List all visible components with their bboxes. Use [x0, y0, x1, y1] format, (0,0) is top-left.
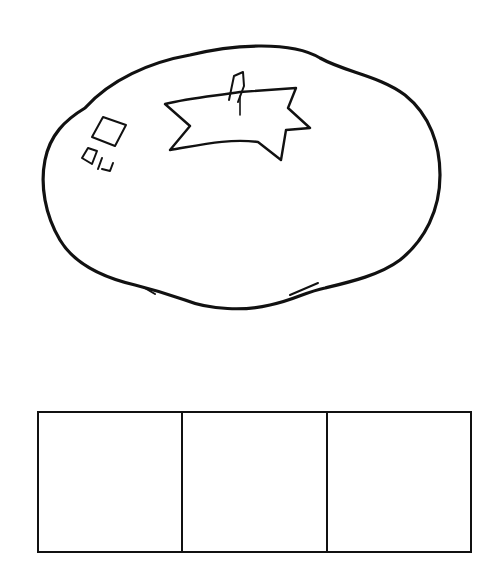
highlight-marks — [82, 117, 126, 171]
stem — [229, 72, 244, 102]
sound-box-2[interactable] — [183, 413, 327, 551]
sound-box-3[interactable] — [328, 413, 470, 551]
tomato-illustration — [0, 0, 500, 340]
tomato-outline — [43, 46, 440, 309]
sound-box-1[interactable] — [39, 413, 183, 551]
leaf-outline — [165, 88, 310, 160]
sound-boxes — [37, 411, 472, 553]
